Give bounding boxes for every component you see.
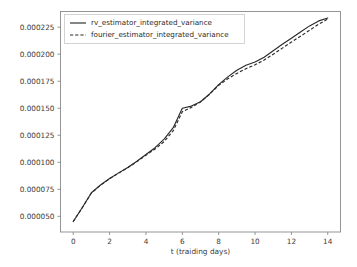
x-tick-label: 8: [216, 237, 221, 246]
y-tick-label: 0.000050: [20, 212, 55, 221]
line-chart: 0.0000500.0000750.0001000.0001250.000150…: [0, 0, 357, 267]
y-tick-label: 0.000150: [20, 104, 55, 113]
legend-label-fourier-estimator: fourier_estimator_integrated_variance: [91, 30, 229, 39]
y-tick-label: 0.000075: [20, 185, 55, 194]
y-tick-label: 0.000200: [20, 50, 55, 59]
x-tick-label: 10: [250, 237, 260, 246]
legend-label-rv-estimator: rv_estimator_integrated_variance: [91, 18, 213, 27]
chart-figure: 0.0000500.0000750.0001000.0001250.000150…: [0, 0, 357, 267]
y-tick-label: 0.000225: [20, 23, 55, 32]
x-tick-label: 14: [323, 237, 333, 246]
x-tick-label: 0: [71, 237, 76, 246]
chart-legend: rv_estimator_integrated_variance fourier…: [65, 15, 245, 44]
x-tick-label: 2: [107, 237, 112, 246]
y-tick-label: 0.000100: [20, 158, 55, 167]
x-axis-label: t (traiding days): [171, 247, 231, 256]
y-tick-label: 0.000175: [20, 77, 55, 86]
x-tick-label: 6: [180, 237, 185, 246]
x-tick-label: 4: [144, 237, 149, 246]
y-tick-label: 0.000125: [20, 131, 55, 140]
x-tick-label: 12: [287, 237, 296, 246]
